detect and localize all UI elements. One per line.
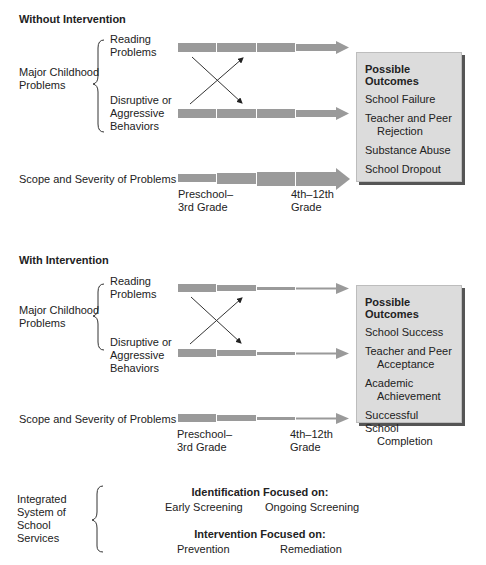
major-problems-label-without: Major Childhood Problems: [19, 66, 99, 92]
major-problems-label-with: Major Childhood Problems: [19, 304, 99, 330]
outcomes-box-without: Possible Outcomes School Failure Teacher…: [356, 52, 462, 182]
reading-bar-without: [178, 41, 349, 54]
identification-item-early: Early Screening: [165, 501, 243, 514]
reading-problems-label-without: Reading Problems: [110, 33, 156, 59]
grade-end-label-with: 4th–12th Grade: [290, 428, 333, 454]
outcome-item: Teacher and PeerRejection: [365, 112, 453, 138]
scope-label-with: Scope and Severity of Problems: [19, 413, 176, 426]
identification-item-ongoing: Ongoing Screening: [265, 501, 359, 514]
intervention-title: Intervention Focused on:: [160, 528, 360, 540]
grade-start-label-with: Preschool– 3rd Grade: [177, 428, 232, 454]
outcome-item: Substance Abuse: [365, 144, 453, 157]
section-title-with: With Intervention: [19, 254, 109, 266]
intervention-item-remediation: Remediation: [280, 543, 342, 556]
grade-end-label-without: 4th–12th Grade: [291, 188, 334, 214]
intervention-item-prevention: Prevention: [177, 543, 230, 556]
services-label: Integrated System of School Services: [17, 493, 67, 545]
outcome-item: Teacher and PeerAcceptance: [365, 345, 453, 371]
outcomes-title: Possible Outcomes: [365, 296, 453, 320]
grade-start-label-without: Preschool– 3rd Grade: [178, 188, 233, 214]
outcome-item: School Success: [365, 326, 453, 339]
brace-services: [92, 486, 103, 552]
disruptive-label-with: Disruptive or Aggressive Behaviors: [110, 336, 172, 375]
outcomes-title: Possible Outcomes: [365, 63, 453, 87]
outcomes-box-with: Possible Outcomes School Success Teacher…: [356, 285, 462, 423]
scope-bar-without: [178, 168, 350, 190]
scope-bar-with: [178, 413, 349, 424]
reading-bar-with: [178, 283, 349, 294]
scope-label-without: Scope and Severity of Problems: [19, 173, 176, 186]
outcome-item: School Failure: [365, 93, 453, 106]
outcome-item: School Dropout: [365, 163, 453, 176]
disruptive-bar-without: [178, 107, 349, 120]
reading-problems-label-with: Reading Problems: [110, 275, 156, 301]
identification-title: Identification Focused on:: [160, 486, 360, 498]
outcome-item: Successful SchoolCompletion: [365, 409, 453, 448]
disruptive-label-without: Disruptive or Aggressive Behaviors: [110, 94, 172, 133]
disruptive-bar-with: [178, 348, 349, 359]
section-title-without: Without Intervention: [19, 13, 126, 25]
outcome-item: AcademicAchievement: [365, 377, 453, 403]
